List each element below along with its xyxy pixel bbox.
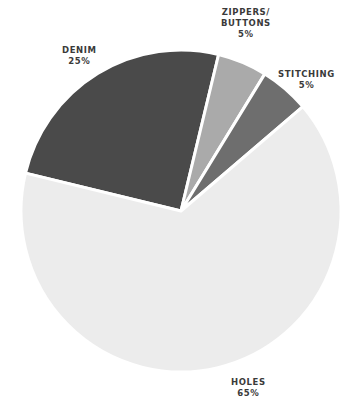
label-holes: HOLES 65% <box>231 377 266 399</box>
label-zippers-line2: BUTTONS <box>221 18 271 29</box>
label-stitching: STITCHING 5% <box>278 69 335 91</box>
label-denim-name: DENIM <box>62 45 97 56</box>
label-zippers-line1: ZIPPERS/ <box>221 7 271 18</box>
label-denim-value: 25% <box>62 56 97 67</box>
label-stitching-value: 5% <box>278 80 335 91</box>
label-zippers-buttons: ZIPPERS/ BUTTONS 5% <box>221 7 271 40</box>
label-stitching-name: STITCHING <box>278 69 335 80</box>
label-holes-value: 65% <box>231 388 266 399</box>
pie-chart <box>0 0 356 420</box>
label-holes-name: HOLES <box>231 377 266 388</box>
label-zippers-value: 5% <box>221 29 271 40</box>
label-denim: DENIM 25% <box>62 45 97 67</box>
